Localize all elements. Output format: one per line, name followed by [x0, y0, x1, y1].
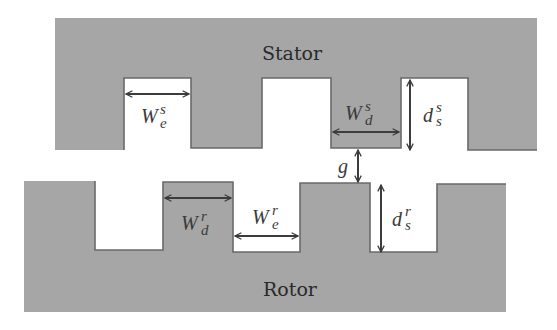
svg-text:d: d	[365, 112, 373, 128]
stator-label: Stator	[262, 42, 323, 64]
air-gap-label: g	[338, 155, 348, 178]
svg-text:d: d	[201, 222, 209, 238]
rotor-slot-width-label: W r e	[252, 202, 279, 232]
rotor-tooth-width-label: W r d	[181, 208, 209, 238]
svg-text:s: s	[405, 217, 411, 233]
stator-slot-depth-label: d s s	[423, 99, 442, 129]
svg-text:e: e	[272, 216, 279, 232]
rotor-label: Rotor	[263, 278, 318, 300]
svg-text:W: W	[141, 105, 160, 127]
svg-text:s: s	[436, 113, 442, 129]
svg-text:W: W	[345, 102, 364, 124]
svg-text:d: d	[423, 104, 434, 126]
svg-text:d: d	[392, 208, 403, 230]
svg-text:W: W	[181, 212, 200, 234]
rotor-slot-depth-label: d r s	[392, 203, 411, 233]
stator-rotor-diagram: Stator Rotor W s e W s d d s s g W r d W…	[0, 0, 557, 330]
svg-text:e: e	[160, 115, 167, 131]
stator-tooth-width-label: W s d	[345, 98, 373, 128]
svg-text:W: W	[252, 206, 271, 228]
stator-body	[55, 18, 537, 150]
stator-slot-width-label: W s e	[141, 101, 167, 131]
